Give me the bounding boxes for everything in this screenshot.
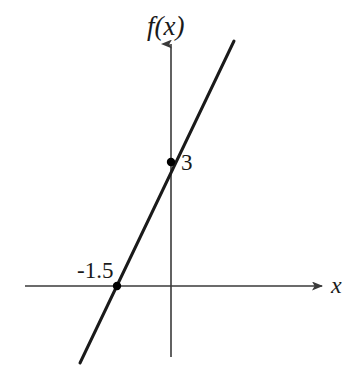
function-line bbox=[80, 41, 234, 363]
y-intercept-point bbox=[167, 158, 175, 166]
y-axis-label: f(x) bbox=[147, 13, 184, 40]
function-graph-figure: f(x) x 3 -1.5 bbox=[0, 0, 356, 375]
x-intercept-label: -1.5 bbox=[77, 259, 113, 282]
x-intercept-point bbox=[113, 282, 121, 290]
y-intercept-label: 3 bbox=[181, 151, 193, 174]
x-axis-label: x bbox=[331, 273, 342, 297]
coordinate-plane bbox=[0, 0, 356, 375]
